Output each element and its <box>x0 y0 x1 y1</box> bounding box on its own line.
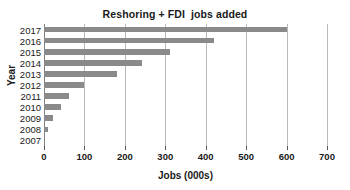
y-axis-tick-labels: 2017201620152014201320122011201020092008… <box>0 24 41 146</box>
y-tick-label-2011: 2011 <box>1 91 41 102</box>
x-tick-label-0: 0 <box>24 151 64 162</box>
bar-2017 <box>44 27 287 33</box>
x-tick-mark-100 <box>84 146 85 150</box>
x-tick-mark-300 <box>165 146 166 150</box>
y-tick-label-2017: 2017 <box>1 24 41 35</box>
bar-2010 <box>44 104 61 110</box>
y-tick-label-2014: 2014 <box>1 57 41 68</box>
x-tick-mark-500 <box>246 146 247 150</box>
chart-container: Reshoring + FDI jobs added Year 20172016… <box>0 0 350 190</box>
x-tick-mark-400 <box>206 146 207 150</box>
x-tick-label-600: 600 <box>267 151 307 162</box>
bar-row <box>44 24 287 35</box>
bar-row <box>44 35 214 46</box>
bar-row <box>44 102 61 113</box>
y-tick-label-2010: 2010 <box>1 102 41 113</box>
x-tick-mark-700 <box>327 146 328 150</box>
x-tick-label-700: 700 <box>307 151 347 162</box>
bar-row <box>44 79 84 90</box>
y-tick-label-2015: 2015 <box>1 46 41 57</box>
x-axis: 0100200300400500600700 <box>44 146 327 172</box>
y-tick-label-2007: 2007 <box>1 135 41 146</box>
x-tick-mark-600 <box>287 146 288 150</box>
bar-2013 <box>44 71 117 77</box>
bar-2009 <box>44 115 53 121</box>
bar-row <box>44 91 69 102</box>
x-tick-label-500: 500 <box>226 151 266 162</box>
bar-row <box>44 46 170 57</box>
bar-row <box>44 57 142 68</box>
y-tick-label-2013: 2013 <box>1 68 41 79</box>
plot-area <box>44 24 327 146</box>
x-tick-mark-0 <box>44 146 45 150</box>
bar-row <box>44 124 48 135</box>
gridline-600 <box>287 24 288 146</box>
bar-2008 <box>44 127 48 133</box>
bar-2012 <box>44 82 84 88</box>
y-tick-label-2009: 2009 <box>1 113 41 124</box>
bar-2016 <box>44 38 214 44</box>
x-tick-label-300: 300 <box>145 151 185 162</box>
gridline-500 <box>246 24 247 146</box>
x-tick-mark-200 <box>125 146 126 150</box>
y-tick-label-2008: 2008 <box>1 124 41 135</box>
bar-2015 <box>44 49 170 55</box>
bar-2014 <box>44 60 142 66</box>
x-tick-label-400: 400 <box>186 151 226 162</box>
x-axis-title: Jobs (000s) <box>44 170 327 181</box>
x-tick-label-100: 100 <box>64 151 104 162</box>
x-tick-label-200: 200 <box>105 151 145 162</box>
y-tick-label-2012: 2012 <box>1 80 41 91</box>
y-tick-label-2016: 2016 <box>1 35 41 46</box>
bar-2011 <box>44 93 69 99</box>
bar-row <box>44 113 53 124</box>
gridline-700 <box>327 24 328 146</box>
chart-title: Reshoring + FDI jobs added <box>0 8 350 20</box>
bar-row <box>44 68 117 79</box>
